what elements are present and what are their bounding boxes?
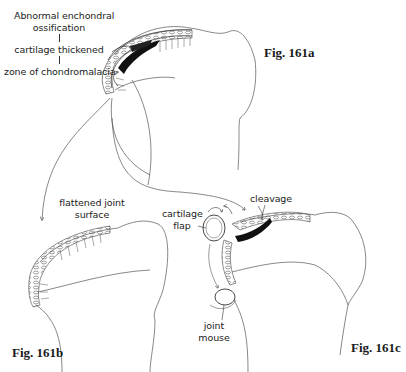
figure-plate: Abnormal enchondral ossification cartila… (0, 0, 406, 372)
label-joint-mouse: joint mouse (196, 320, 232, 344)
connector-line (59, 56, 60, 64)
label-cartilage-flap: cartilage flap (162, 208, 202, 232)
cartilage-flap-shape (203, 215, 225, 241)
caption-fig-161a: Fig. 161a (264, 45, 315, 61)
connector-line (59, 34, 60, 42)
label-cleavage: cleavage (250, 193, 292, 205)
label-flattened-joint-surface: flattened joint surface (52, 197, 132, 221)
joint-mouse-shape (215, 289, 235, 305)
caption-fig-161c: Fig. 161c (351, 340, 401, 356)
fig-161c-cartilage (198, 205, 310, 320)
label-zone-chondromalacia: zone of chondromalacia (4, 66, 114, 78)
label-cartilage-thickened: cartilage thickened (14, 44, 104, 64)
fig-161b-cartilage (29, 226, 110, 307)
fig-161a-cartilage (102, 30, 192, 94)
caption-fig-161b: Fig. 161b (12, 345, 63, 361)
label-abnormal-ossification: Abnormal enchondral ossification (14, 10, 104, 42)
